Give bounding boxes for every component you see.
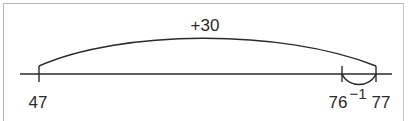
number-line-diagram: +30 47 76 −1 77 <box>0 0 409 121</box>
point-label-47: 47 <box>29 93 48 112</box>
point-label-76: 76 <box>329 93 348 112</box>
point-label-77: 77 <box>372 93 391 112</box>
jump-arc-plus-30 <box>39 38 376 66</box>
jump-label-minus-1: −1 <box>349 85 366 102</box>
jump-arc-minus-1 <box>342 74 376 85</box>
jump-label-plus-30: +30 <box>191 16 220 35</box>
